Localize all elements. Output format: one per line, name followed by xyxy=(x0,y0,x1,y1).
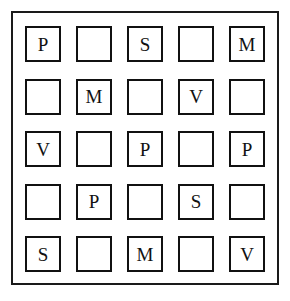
grid-cell-r1c1[interactable]: P xyxy=(25,26,61,62)
grid-cell-r4c3[interactable] xyxy=(127,184,163,220)
grid-cell-label: P xyxy=(140,140,151,159)
grid-cell-label: V xyxy=(189,87,203,106)
grid-cell-r4c2[interactable]: P xyxy=(76,184,112,220)
grid-cell-r2c2[interactable]: M xyxy=(76,79,112,115)
grid-cell-label: P xyxy=(89,192,100,211)
grid-cell-r4c1[interactable] xyxy=(25,184,61,220)
grid-cell-r3c4[interactable] xyxy=(178,131,214,167)
grid-cell-r3c5[interactable]: P xyxy=(229,131,265,167)
grid-cell-r2c4[interactable]: V xyxy=(178,79,214,115)
grid-cell-r1c2[interactable] xyxy=(76,26,112,62)
grid-cell-label: S xyxy=(191,192,202,211)
grid-cell-label: P xyxy=(38,35,49,54)
grid-cell-r1c3[interactable]: S xyxy=(127,26,163,62)
grid-cell-label: S xyxy=(38,245,49,264)
grid-cell-r3c2[interactable] xyxy=(76,131,112,167)
grid-cell-label: M xyxy=(86,87,103,106)
grid-cell-r5c3[interactable]: M xyxy=(127,236,163,272)
grid-cell-label: V xyxy=(36,140,50,159)
grid-cell-label: S xyxy=(140,35,151,54)
grid-cell-r2c1[interactable] xyxy=(25,79,61,115)
grid-cell-label: P xyxy=(242,140,253,159)
grid-cell-r5c1[interactable]: S xyxy=(25,236,61,272)
grid-cell-r1c5[interactable]: M xyxy=(229,26,265,62)
letter-grid: P S M M V V xyxy=(25,26,265,272)
grid-panel: P S M M V V xyxy=(11,11,279,285)
grid-cell-r5c5[interactable]: V xyxy=(229,236,265,272)
grid-cell-r1c4[interactable] xyxy=(178,26,214,62)
grid-cell-r4c4[interactable]: S xyxy=(178,184,214,220)
grid-cell-r3c3[interactable]: P xyxy=(127,131,163,167)
grid-cell-r2c5[interactable] xyxy=(229,79,265,115)
grid-cell-label: M xyxy=(239,35,256,54)
grid-cell-label: M xyxy=(137,245,154,264)
grid-cell-r5c2[interactable] xyxy=(76,236,112,272)
grid-cell-r5c4[interactable] xyxy=(178,236,214,272)
grid-cell-r4c5[interactable] xyxy=(229,184,265,220)
grid-cell-label: V xyxy=(240,245,254,264)
grid-cell-r3c1[interactable]: V xyxy=(25,131,61,167)
grid-cell-r2c3[interactable] xyxy=(127,79,163,115)
